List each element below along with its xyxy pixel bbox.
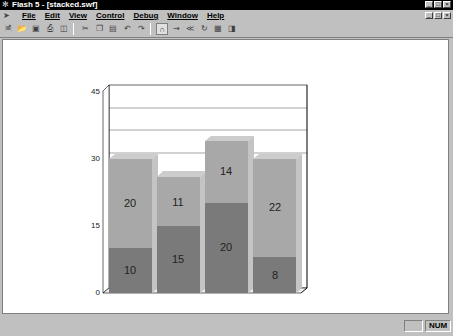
toolbar-separator — [73, 23, 74, 35]
y-tick-30: 30 — [91, 154, 100, 163]
flash-app-icon: ✻ — [2, 1, 10, 9]
num-lock-indicator: NUM — [425, 320, 451, 332]
undo-icon[interactable]: ↶ — [121, 23, 133, 35]
doc-minimize-button[interactable]: _ — [425, 12, 433, 19]
document-icon[interactable]: ➤ — [3, 11, 13, 20]
flash-window: ✻ Flash 5 - [stacked.swf] _ □ × ➤ File E… — [0, 0, 453, 336]
straighten-icon[interactable]: ≪ — [184, 23, 196, 35]
snap-icon[interactable]: ∩ — [156, 23, 168, 35]
copy-icon[interactable]: ❐ — [93, 23, 105, 35]
menu-view[interactable]: View — [69, 11, 87, 20]
save-icon[interactable]: ▣ — [30, 23, 42, 35]
print-icon[interactable]: ⎙ — [44, 23, 56, 35]
bar-1: 20 10 — [109, 154, 158, 293]
toolbar: 🗎 📂 ▣ ⎙ ◫ ✂ ❐ ▤ ↶ ↷ ∩ ⇝ ≪ ↻ ▦ ◨ — [0, 21, 453, 38]
bar-4-bottom-label: 8 — [272, 269, 278, 281]
movie-stage: 45 30 15 0 20 10 11 — [2, 39, 449, 314]
toolbar-separator — [150, 23, 151, 35]
new-icon[interactable]: 🗎 — [2, 23, 14, 35]
status-bar: NUM — [0, 317, 453, 336]
menu-file[interactable]: File — [22, 11, 36, 20]
maximize-button[interactable]: □ — [434, 1, 442, 8]
redo-icon[interactable]: ↷ — [135, 23, 147, 35]
menu-control[interactable]: Control — [96, 11, 124, 20]
bar-2-top-label: 11 — [172, 196, 183, 208]
y-axis-ticks: 45 30 15 0 — [91, 87, 100, 297]
paste-icon[interactable]: ▤ — [107, 23, 119, 35]
bar-4-top-label: 22 — [269, 201, 281, 213]
bar-2-bottom-label: 15 — [172, 253, 184, 265]
menu-window[interactable]: Window — [167, 11, 198, 20]
cut-icon[interactable]: ✂ — [79, 23, 91, 35]
menu-help[interactable]: Help — [207, 11, 224, 20]
menu-debug[interactable]: Debug — [133, 11, 158, 20]
stacked-bar-chart: 45 30 15 0 20 10 11 — [3, 40, 450, 315]
smooth-icon[interactable]: ⇝ — [170, 23, 182, 35]
bar-3-bottom-label: 20 — [220, 241, 232, 253]
print-preview-icon[interactable]: ◫ — [58, 23, 70, 35]
doc-maximize-button[interactable]: □ — [434, 12, 442, 19]
window-title: Flash 5 - [stacked.swf] — [12, 0, 97, 10]
bar-3-top-label: 14 — [220, 165, 232, 177]
bar-4: 22 8 — [253, 154, 302, 293]
rotate-icon[interactable]: ↻ — [198, 23, 210, 35]
bar-2: 11 15 — [157, 171, 206, 293]
y-tick-15: 15 — [91, 221, 100, 230]
align-icon[interactable]: ◨ — [226, 23, 238, 35]
bar-1-top-label: 20 — [124, 197, 136, 209]
close-button[interactable]: × — [443, 1, 451, 8]
scale-icon[interactable]: ▦ — [212, 23, 224, 35]
bar-1-bottom-label: 10 — [124, 264, 136, 276]
open-icon[interactable]: 📂 — [16, 23, 28, 35]
y-tick-0: 0 — [96, 288, 101, 297]
bar-3: 14 20 — [205, 136, 254, 293]
minimize-button[interactable]: _ — [425, 1, 433, 8]
title-bar: ✻ Flash 5 - [stacked.swf] _ □ × — [0, 0, 453, 10]
y-tick-45: 45 — [91, 87, 100, 96]
menu-bar: ➤ File Edit View Control Debug Window He… — [0, 10, 453, 21]
menu-edit[interactable]: Edit — [45, 11, 60, 20]
status-pane — [404, 320, 423, 332]
doc-close-button[interactable]: × — [443, 12, 451, 19]
